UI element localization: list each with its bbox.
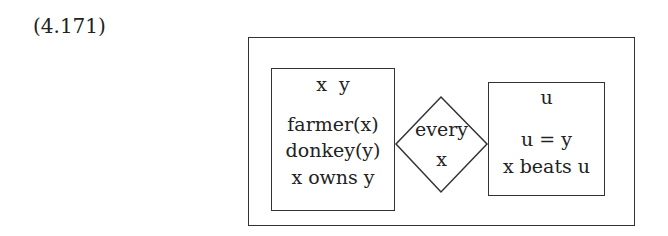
quantifier-label: every (396, 118, 487, 140)
quantifier-variable: x (396, 148, 487, 170)
consequent-universe: u (488, 86, 605, 108)
consequent-condition: x beats u (488, 155, 605, 177)
consequent-condition: u = y (488, 128, 605, 150)
